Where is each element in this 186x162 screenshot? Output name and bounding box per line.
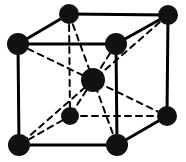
- bcc-lattice-figure: [0, 0, 186, 162]
- atom-back-bottom-left: [61, 107, 79, 125]
- atom-body-center: [81, 68, 105, 92]
- atom-back-bottom-right: [157, 106, 177, 126]
- atom-front-bottom-left: [8, 134, 30, 156]
- atom-front-top-left: [7, 33, 29, 55]
- back-right-edge: [167, 15, 168, 116]
- back-top-edge: [69, 14, 168, 15]
- atom-front-bottom-right: [106, 134, 128, 156]
- front-left-edge: [18, 44, 19, 145]
- bcc-lattice-diagram: [0, 0, 186, 162]
- atom-back-top-right: [158, 5, 178, 25]
- atom-front-top-right: [105, 33, 127, 55]
- front-right-edge: [116, 44, 117, 145]
- atom-back-top-left: [59, 4, 79, 24]
